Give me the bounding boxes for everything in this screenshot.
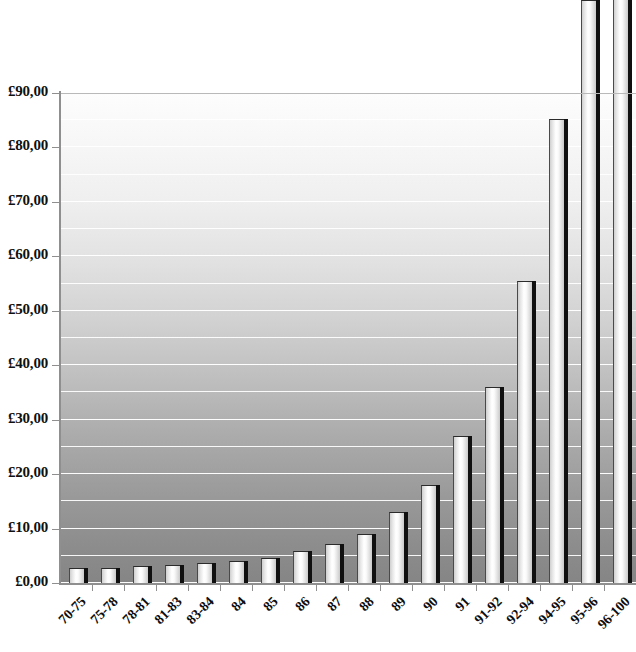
x-axis-tick [412,584,413,591]
y-axis-tick [52,529,60,530]
bar [101,568,116,583]
bar-chart: £90,00£80,00£70,00£60,00£50,00£40,00£30,… [0,0,636,652]
y-axis-tick [52,311,60,312]
x-axis-tick [604,584,605,591]
bar [421,485,436,583]
y-axis-tick [52,365,60,366]
x-axis-tick [188,584,189,591]
y-axis-tick [52,420,60,421]
y-axis-label: £50,00 [8,301,48,318]
x-axis-tick [476,584,477,591]
bar [133,566,148,583]
y-axis-line [59,91,61,585]
bar [357,534,372,583]
plot-area [60,93,636,583]
x-axis-tick [220,584,221,591]
y-axis-tick [52,93,60,94]
y-axis-tick [52,583,60,584]
x-axis-tick [156,584,157,591]
x-axis-tick [508,584,509,591]
x-axis-tick [316,584,317,591]
x-axis-tick [348,584,349,591]
y-axis-label: £80,00 [8,137,48,154]
x-axis-tick [252,584,253,591]
x-axis-tick [124,584,125,591]
y-axis-label: £20,00 [8,464,48,481]
bar [581,0,596,583]
bar [261,558,276,583]
y-axis-label: £90,00 [8,83,48,100]
x-axis-tick [284,584,285,591]
y-axis-tick [52,202,60,203]
bar [549,119,564,583]
bar [165,565,180,583]
bar [293,551,308,583]
y-axis-label: £70,00 [8,192,48,209]
x-axis-tick [572,584,573,591]
x-axis-tick [444,584,445,591]
bar [197,563,212,583]
bar [485,387,500,583]
bar [517,281,532,583]
y-axis-tick [52,474,60,475]
bar [389,512,404,583]
y-axis-label: £30,00 [8,410,48,427]
plot-top-border [60,93,636,94]
bar [229,561,244,583]
bar [325,544,340,583]
bar [69,568,84,583]
bar [613,0,628,583]
y-axis-label: £40,00 [8,355,48,372]
x-axis-tick [92,584,93,591]
y-axis-tick [52,147,60,148]
y-axis-tick [52,256,60,257]
x-axis-tick [540,584,541,591]
y-axis-label: £0,00 [15,573,48,590]
y-axis-label: £60,00 [8,246,48,263]
y-axis-label: £10,00 [8,519,48,536]
x-axis-tick [380,584,381,591]
bar [453,436,468,583]
